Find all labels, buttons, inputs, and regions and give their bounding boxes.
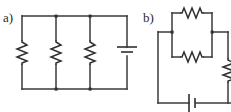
panel-b: b) xyxy=(143,8,231,112)
junction-dot-b-left xyxy=(171,31,174,34)
resistor-a3 xyxy=(85,40,95,65)
resistor-b2 xyxy=(180,52,204,62)
junction-dot-a-top-2 xyxy=(89,15,92,18)
junction-dot-a-top-1 xyxy=(55,15,58,18)
resistor-a1 xyxy=(17,40,27,65)
panel-a: a) xyxy=(3,10,137,91)
battery-b xyxy=(189,94,195,112)
resistor-b3 xyxy=(223,58,231,83)
junction-dot-b-right xyxy=(211,31,214,34)
panel-b-label: b) xyxy=(143,10,154,25)
battery-a xyxy=(117,47,137,52)
resistor-b1 xyxy=(180,8,204,18)
junction-dot-a-bottom-1 xyxy=(55,88,58,91)
resistor-a2 xyxy=(51,40,61,65)
circuit-canvas: a) xyxy=(0,0,231,112)
panel-a-label: a) xyxy=(3,10,13,25)
junction-dot-a-bottom-2 xyxy=(89,88,92,91)
circuit-figure: a) xyxy=(0,0,231,112)
